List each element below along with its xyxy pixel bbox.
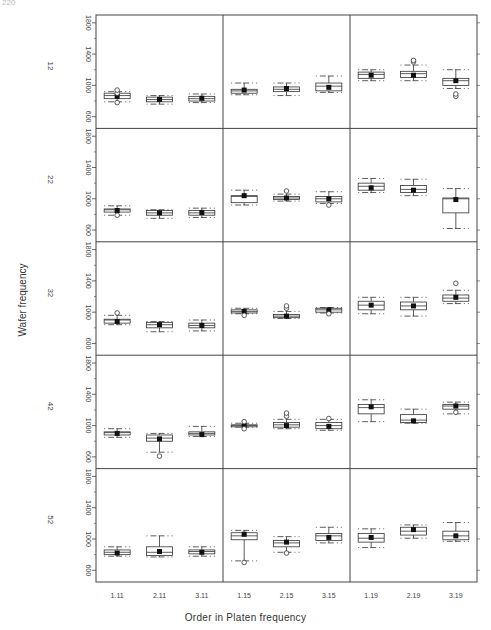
outlier-marker bbox=[327, 203, 332, 208]
box-52-1.11 bbox=[104, 547, 130, 556]
mean-marker bbox=[284, 314, 289, 319]
box-42-2.19 bbox=[401, 409, 427, 423]
x-tick-label: 2.15 bbox=[280, 592, 294, 599]
row-label: 22 bbox=[46, 175, 55, 184]
outlier-marker bbox=[284, 304, 289, 309]
box-52-3.15 bbox=[316, 527, 342, 543]
mean-marker bbox=[369, 73, 374, 78]
outlier-marker bbox=[454, 92, 459, 97]
mean-marker bbox=[115, 431, 120, 436]
box-52-2.19 bbox=[401, 525, 427, 538]
box-12-2.11 bbox=[147, 96, 173, 105]
box-12-2.19 bbox=[401, 58, 427, 81]
y-tick-label: 600 bbox=[85, 111, 92, 123]
box-22-2.15 bbox=[274, 189, 300, 201]
box-42-3.15 bbox=[316, 416, 342, 430]
outlier-marker bbox=[284, 551, 289, 556]
box-32-2.11 bbox=[147, 322, 173, 332]
mean-marker bbox=[242, 193, 247, 198]
y-tick-label: 1400 bbox=[85, 46, 92, 62]
outlier-marker bbox=[284, 189, 289, 194]
panel-row-42: 42600100014001800 bbox=[46, 355, 480, 463]
box-52-1.15 bbox=[231, 530, 257, 564]
mean-marker bbox=[199, 323, 204, 328]
mean-marker bbox=[326, 535, 331, 540]
box-22-1.19 bbox=[358, 178, 384, 192]
panel-row-12: 12600100014001800 bbox=[46, 15, 480, 123]
y-tick-label: 1000 bbox=[85, 531, 92, 547]
outlier-marker bbox=[242, 419, 247, 424]
box-32-1.19 bbox=[358, 297, 384, 313]
mean-marker bbox=[284, 423, 289, 428]
x-tick-label: 2.11 bbox=[153, 592, 166, 599]
box-52-3.11 bbox=[189, 547, 215, 556]
box-32-3.19 bbox=[443, 281, 469, 304]
mean-marker bbox=[369, 535, 374, 540]
row-label: 32 bbox=[46, 288, 55, 297]
outlier-marker bbox=[327, 311, 332, 316]
box-42-1.11 bbox=[104, 429, 130, 438]
y-tick-label: 1400 bbox=[85, 160, 92, 176]
mean-marker bbox=[157, 97, 162, 102]
box-12-1.15 bbox=[231, 83, 257, 95]
y-tick-label: 1800 bbox=[85, 469, 92, 485]
row-label: 42 bbox=[46, 402, 55, 411]
mean-marker bbox=[115, 208, 120, 213]
mean-marker bbox=[411, 418, 416, 423]
mean-marker bbox=[199, 96, 204, 101]
outlier-marker bbox=[411, 58, 416, 63]
box-22-3.15 bbox=[316, 192, 342, 208]
outlier-marker bbox=[242, 313, 247, 318]
box-32-1.11 bbox=[104, 311, 130, 325]
box-42-1.19 bbox=[358, 400, 384, 422]
y-axis-title: Wafer frequency bbox=[17, 264, 28, 337]
box-52-1.19 bbox=[358, 529, 384, 548]
mean-marker bbox=[242, 88, 247, 93]
x-tick-label: 1.11 bbox=[111, 592, 124, 599]
box-22-1.11 bbox=[104, 206, 130, 218]
mean-marker bbox=[453, 295, 458, 300]
mean-marker bbox=[326, 424, 331, 429]
row-label: 52 bbox=[46, 515, 55, 524]
box-12-3.19 bbox=[443, 70, 469, 99]
box-22-2.11 bbox=[147, 210, 173, 219]
x-tick-label: 1.19 bbox=[364, 592, 378, 599]
y-tick-label: 1400 bbox=[85, 500, 92, 516]
box-32-2.15 bbox=[274, 304, 300, 319]
outlier-marker bbox=[115, 100, 120, 105]
y-tick-label: 1800 bbox=[85, 355, 92, 371]
box-52-2.15 bbox=[274, 537, 300, 556]
outlier-marker bbox=[115, 311, 120, 316]
mean-marker bbox=[411, 303, 416, 308]
mean-marker bbox=[199, 550, 204, 555]
mean-marker bbox=[157, 549, 162, 554]
x-tick-label: 1.15 bbox=[237, 592, 251, 599]
outlier-marker bbox=[242, 560, 247, 565]
mean-marker bbox=[453, 197, 458, 202]
y-tick-label: 600 bbox=[85, 338, 92, 350]
outlier-marker bbox=[284, 411, 289, 416]
boxplot-trellis-chart: 1260010001400180022600100014001800326001… bbox=[0, 0, 491, 630]
y-tick-label: 600 bbox=[85, 564, 92, 576]
mean-marker bbox=[326, 85, 331, 90]
outlier-marker bbox=[454, 410, 459, 415]
mean-marker bbox=[326, 196, 331, 201]
y-tick-label: 1000 bbox=[85, 78, 92, 94]
mean-marker bbox=[115, 319, 120, 324]
y-tick-label: 1000 bbox=[85, 418, 92, 434]
box-32-2.19 bbox=[401, 297, 427, 316]
box-12-1.19 bbox=[358, 70, 384, 81]
box-12-3.15 bbox=[316, 76, 342, 92]
y-tick-label: 1400 bbox=[85, 387, 92, 403]
mean-marker bbox=[411, 73, 416, 78]
mean-marker bbox=[369, 404, 374, 409]
mean-marker bbox=[157, 436, 162, 441]
mean-marker bbox=[284, 86, 289, 91]
mean-marker bbox=[157, 210, 162, 215]
outlier-marker bbox=[115, 213, 120, 218]
y-tick-label: 1800 bbox=[85, 128, 92, 144]
mean-marker bbox=[453, 78, 458, 83]
mean-marker bbox=[199, 210, 204, 215]
box-52-3.19 bbox=[443, 523, 469, 542]
mean-marker bbox=[369, 303, 374, 308]
